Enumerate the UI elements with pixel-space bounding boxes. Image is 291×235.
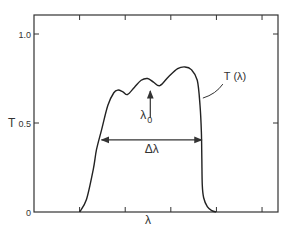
plot-frame xyxy=(34,15,278,212)
y-tick-label: 1.0 xyxy=(18,30,31,40)
transmission-chart: 00.51.0 T (λ)λ0Δλ T λ xyxy=(0,0,291,235)
leader-line xyxy=(203,84,223,98)
series-label-t-lambda: T (λ) xyxy=(224,70,246,82)
y-tick-label: 0.5 xyxy=(18,119,31,129)
y-tick-label: 0 xyxy=(26,208,31,218)
y-axis-label: T xyxy=(8,116,16,130)
bandwidth-label: Δλ xyxy=(145,142,159,156)
lambda0-subscript: 0 xyxy=(147,115,152,125)
x-axis-label: λ xyxy=(145,213,151,227)
